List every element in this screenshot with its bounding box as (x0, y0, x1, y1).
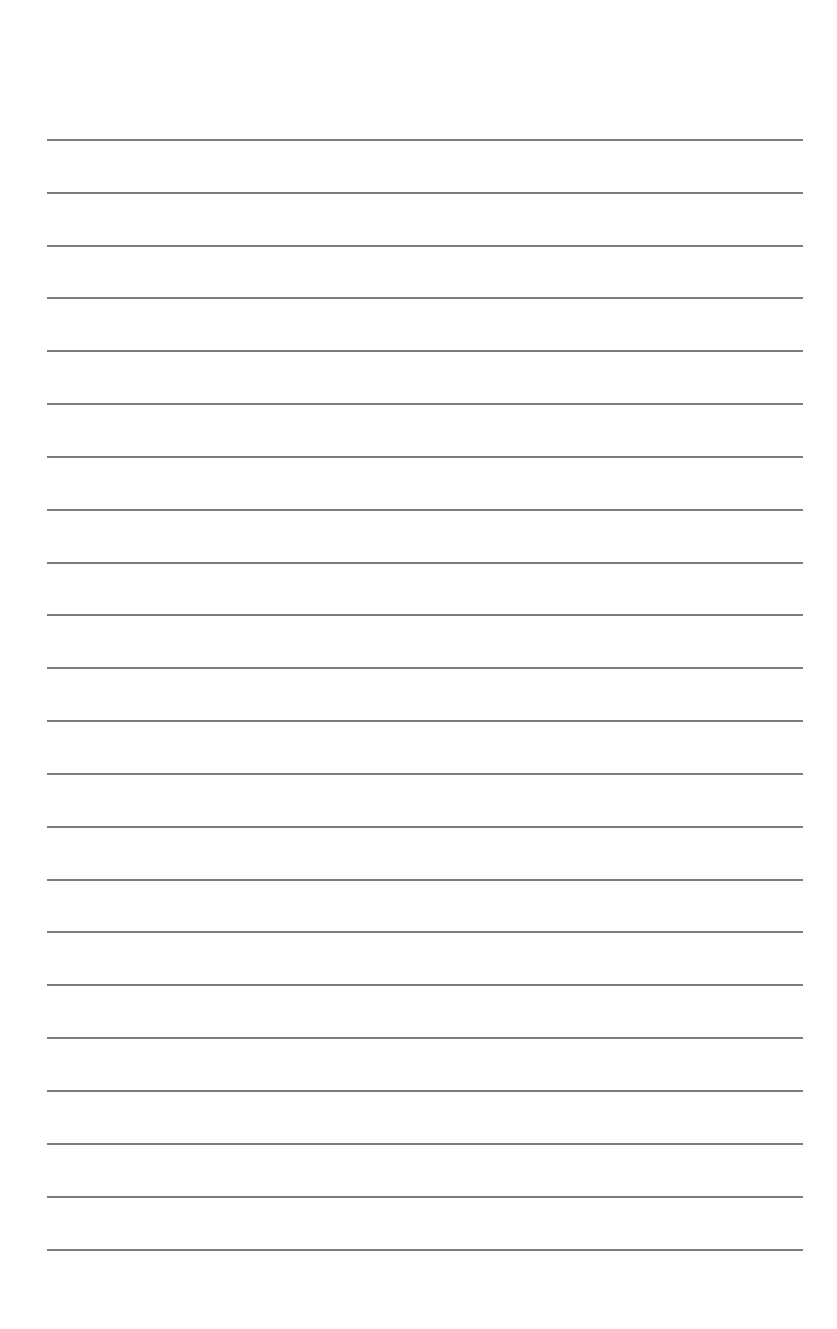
ruled-line (47, 192, 803, 194)
ruled-line (47, 245, 803, 247)
ruled-line (47, 773, 803, 775)
ruled-line (47, 667, 803, 669)
ruled-line (47, 614, 803, 616)
lined-paper-page (0, 0, 837, 1329)
ruled-line (47, 826, 803, 828)
ruled-line (47, 509, 803, 511)
ruled-line (47, 297, 803, 299)
ruled-line (47, 720, 803, 722)
ruled-line (47, 879, 803, 881)
ruled-line (47, 1037, 803, 1039)
ruled-line (47, 139, 803, 141)
ruled-line (47, 350, 803, 352)
ruled-line (47, 1196, 803, 1198)
ruled-line (47, 562, 803, 564)
ruled-line (47, 1090, 803, 1092)
ruled-line (47, 931, 803, 933)
ruled-line (47, 984, 803, 986)
ruled-line (47, 403, 803, 405)
ruled-line (47, 1249, 803, 1251)
ruled-line (47, 456, 803, 458)
ruled-line (47, 1143, 803, 1145)
